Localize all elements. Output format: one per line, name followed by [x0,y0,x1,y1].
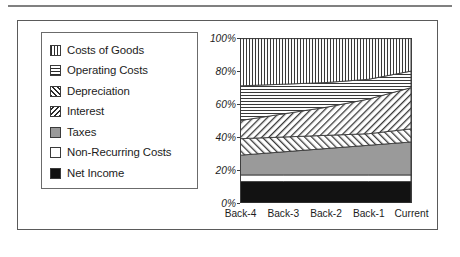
stacked-area-chart: 0%20%40%60%80%100% [206,32,428,224]
legend-swatch-vertical-hatch-icon [50,45,61,56]
y-axis-tick-0: 0% [221,198,236,209]
x-axis-tick-labels: Back-4Back-3Back-2Back-1Current [240,208,412,222]
y-axis-tick-80: 80% [216,66,236,77]
area-band-non-recurring-costs [241,175,412,182]
area-band-net-income [241,182,412,203]
legend-item-net-income[interactable]: Net Income [50,163,197,184]
legend-swatch-solid-black-icon [50,168,61,179]
legend-label: Operating Costs [67,65,148,76]
legend-item-non-recurring-costs[interactable]: Non-Recurring Costs [50,143,197,164]
top-horizontal-rule [8,5,452,7]
figure-container: Costs of Goods Operating Costs Depreciat… [0,0,460,257]
x-axis-tick-back-1: Back-1 [353,208,385,219]
y-axis-tick-40: 40% [216,132,236,143]
legend-swatch-solid-white-icon [50,147,61,158]
legend-label: Costs of Goods [67,45,144,56]
legend-item-operating-costs[interactable]: Operating Costs [50,61,197,82]
x-axis-tick-back-4: Back-4 [225,208,257,219]
y-axis-tick-20: 20% [216,165,236,176]
legend-label: Net Income [67,168,124,179]
legend-item-costs-of-goods[interactable]: Costs of Goods [50,40,197,61]
chart-legend: Costs of Goods Operating Costs Depreciat… [41,32,198,189]
y-axis-tick-labels: 0%20%40%60%80%100% [206,38,236,203]
y-axis-tick-60: 60% [216,99,236,110]
legend-swatch-backward-diagonal-icon [50,106,61,117]
x-axis-tick-back-2: Back-2 [310,208,342,219]
x-axis-tick-back-3: Back-3 [267,208,299,219]
legend-swatch-solid-gray-icon [50,127,61,138]
legend-item-depreciation[interactable]: Depreciation [50,81,197,102]
legend-label: Non-Recurring Costs [67,147,171,158]
legend-swatch-horizontal-hatch-icon [50,65,61,76]
plot-area [240,38,412,203]
legend-label: Taxes [67,127,96,138]
legend-label: Depreciation [67,86,130,97]
stacked-bands-group [241,38,412,203]
y-axis-tick-100: 100% [210,33,236,44]
plot-svg [240,38,412,203]
legend-label: Interest [67,106,104,117]
legend-item-taxes[interactable]: Taxes [50,122,197,143]
legend-swatch-forward-diagonal-icon [50,86,61,97]
legend-item-interest[interactable]: Interest [50,102,197,123]
x-axis-tick-current: Current [395,208,429,219]
